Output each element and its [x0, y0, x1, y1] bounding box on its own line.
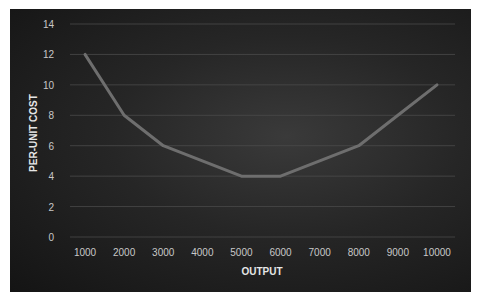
line-chart: 02468101214 1000200030004000500060007000…	[0, 0, 478, 300]
y-tick-label: 12	[43, 49, 55, 60]
x-tick-label: 5000	[230, 247, 253, 258]
y-tick-label: 14	[43, 19, 55, 30]
x-tick-label: 1000	[74, 247, 97, 258]
y-tick-label: 4	[48, 171, 54, 182]
x-axis-title: OUTPUT	[241, 266, 282, 277]
x-tick-label: 2000	[113, 247, 136, 258]
y-axis-ticks: 02468101214	[43, 19, 55, 243]
y-tick-label: 2	[48, 202, 54, 213]
x-tick-label: 10000	[423, 247, 451, 258]
x-tick-label: 4000	[191, 247, 214, 258]
gridlines	[70, 24, 455, 237]
y-tick-label: 10	[43, 80, 55, 91]
y-tick-label: 6	[48, 141, 54, 152]
x-tick-label: 6000	[269, 247, 292, 258]
x-tick-label: 3000	[152, 247, 175, 258]
y-tick-label: 0	[48, 232, 54, 243]
y-axis-title: PER-UNIT COST	[28, 94, 39, 172]
x-tick-label: 9000	[387, 247, 410, 258]
x-axis-ticks: 1000200030004000500060007000800090001000…	[74, 247, 451, 258]
x-tick-label: 8000	[348, 247, 371, 258]
y-tick-label: 8	[48, 110, 54, 121]
x-tick-label: 7000	[309, 247, 332, 258]
